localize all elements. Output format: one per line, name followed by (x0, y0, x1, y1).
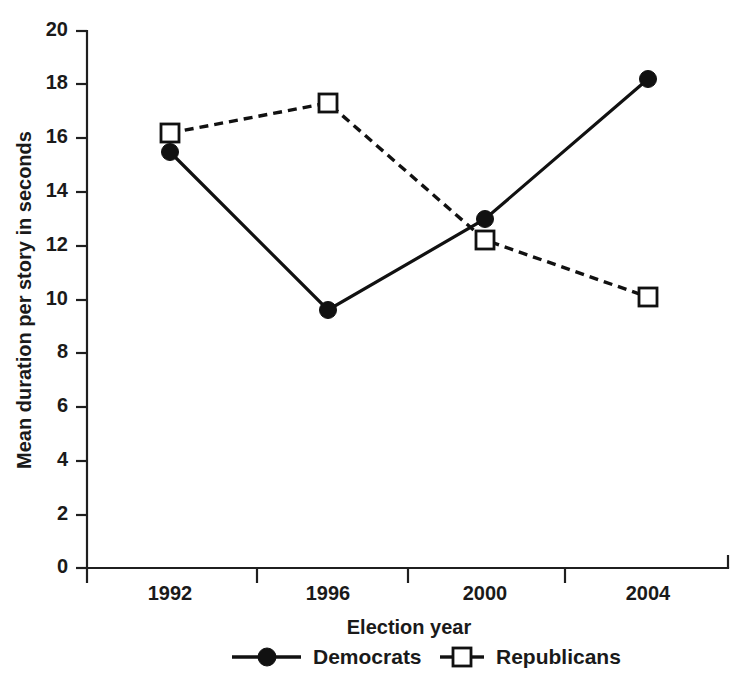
legend-democrats-marker-icon (258, 648, 276, 666)
legend-democrats-label: Democrats (313, 645, 422, 668)
y-tick-label-20: 20 (46, 18, 68, 40)
democrats-point-1996 (320, 302, 337, 319)
y-axis: 20 18 16 14 12 10 8 6 4 2 0 Mean duratio… (13, 18, 87, 577)
democrats-point-1992 (162, 144, 179, 161)
republicans-point-1992 (161, 124, 179, 142)
y-tick-label-0: 0 (57, 555, 68, 577)
republicans-point-1996 (319, 94, 337, 112)
y-tick-label-16: 16 (46, 125, 68, 147)
republicans-point-2004 (639, 288, 657, 306)
x-axis: 1992 1996 2000 2004 Election year (87, 555, 728, 638)
x-tick-label-1992: 1992 (148, 582, 193, 604)
republicans-point-2000 (476, 231, 494, 249)
legend-item-democrats[interactable]: Democrats (232, 645, 422, 668)
legend-item-republicans[interactable]: Republicans (440, 645, 621, 668)
y-tick-label-12: 12 (46, 233, 68, 255)
democrats-line (170, 79, 648, 310)
x-axis-title: Election year (347, 616, 472, 638)
x-tick-label-2004: 2004 (626, 582, 671, 604)
legend-republicans-marker-icon (453, 648, 471, 666)
y-tick-label-6: 6 (57, 394, 68, 416)
series-republicans (161, 94, 657, 306)
y-axis-title: Mean duration per story in seconds (13, 131, 35, 469)
y-tick-label-18: 18 (46, 71, 68, 93)
legend-republicans-label: Republicans (496, 645, 621, 668)
y-tick-label-10: 10 (46, 287, 68, 309)
x-tick-label-1996: 1996 (306, 582, 351, 604)
chart-figure: 20 18 16 14 12 10 8 6 4 2 0 Mean duratio… (0, 0, 749, 692)
x-tick-label-2000: 2000 (463, 582, 508, 604)
y-tick-label-4: 4 (57, 448, 69, 470)
democrats-point-2000 (477, 211, 494, 228)
series-democrats (162, 71, 657, 319)
republicans-line (170, 103, 648, 297)
y-tick-label-8: 8 (57, 340, 68, 362)
democrats-point-2004 (640, 71, 657, 88)
line-chart-svg: 20 18 16 14 12 10 8 6 4 2 0 Mean duratio… (0, 0, 749, 692)
y-tick-label-14: 14 (46, 179, 69, 201)
y-tick-label-2: 2 (57, 502, 68, 524)
chart-legend: Democrats Republicans (232, 645, 621, 668)
